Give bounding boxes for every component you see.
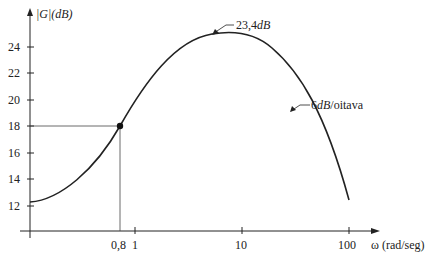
y-tick-18: 18 [8, 119, 20, 133]
slope-annotation: 6dB/oitava [311, 98, 364, 112]
x-tick-labels: 0,8 1 10 100 [111, 238, 356, 252]
x-axis-label: ω (rad/seg) [371, 238, 425, 252]
y-tick-14: 14 [8, 172, 20, 186]
y-tick-22: 22 [8, 66, 20, 80]
y-axis-label: |G|(dB) [36, 7, 73, 21]
x-tick-1: 1 [132, 238, 138, 252]
x-tick-10: 10 [235, 238, 247, 252]
y-tick-labels: 24 22 20 18 16 14 12 [8, 40, 20, 213]
magnitude-curve [30, 32, 349, 202]
x-tick-0-8: 0,8 [111, 238, 126, 252]
y-tick-12: 12 [8, 199, 20, 213]
peak-annotation: 23,4dB [236, 18, 271, 32]
y-tick-20: 20 [8, 93, 20, 107]
y-axis-arrow-icon [27, 8, 33, 16]
y-tick-24: 24 [8, 40, 20, 54]
y-tick-16: 16 [8, 146, 20, 160]
bode-magnitude-chart: 24 22 20 18 16 14 12 |G|(dB) 0,8 1 10 10… [0, 0, 429, 259]
x-tick-100: 100 [338, 238, 356, 252]
x-axis-arrow-icon [371, 228, 380, 234]
slope-arrow-icon [290, 106, 296, 112]
marked-point [117, 123, 123, 129]
